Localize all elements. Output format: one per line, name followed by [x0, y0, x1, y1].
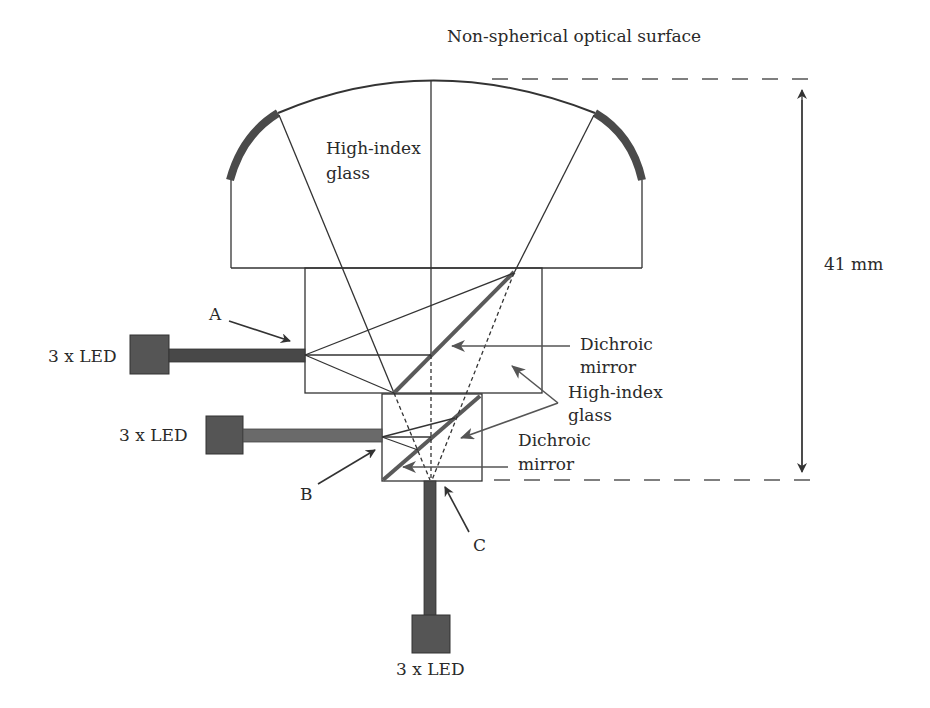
ray-a-upper [305, 273, 514, 355]
mirror-lower-label-line1: Dichroic [518, 430, 591, 450]
glass-top-label-line1: High-index [326, 138, 421, 158]
fiber-b [243, 429, 382, 442]
optical-combiner-diagram: Non-spherical optical surface 41 mm High… [0, 0, 930, 708]
upper-dichroic-mirror [394, 272, 514, 393]
led-a-label: 3 x LED [48, 346, 117, 366]
port-c-pointer [445, 487, 469, 532]
glass-side-label-line2: glass [568, 405, 612, 425]
upper-prism [305, 268, 542, 393]
led-c-block [412, 615, 450, 653]
led-b-label: 3 x LED [119, 425, 188, 445]
led-b-block [206, 416, 243, 454]
left-reflective-cap [230, 113, 278, 180]
glass-side-label-line1: High-index [568, 382, 663, 402]
mirror-lower-label-line2: mirror [518, 454, 575, 474]
dome-lens [230, 81, 642, 269]
fiber-c [424, 481, 436, 616]
led-a-block [130, 335, 169, 374]
port-c-label: C [473, 535, 486, 555]
ray-right-dome [514, 115, 594, 273]
mirror-upper-label-line1: Dichroic [580, 334, 653, 354]
port-a-label: A [208, 304, 222, 324]
port-a-pointer [229, 321, 290, 341]
right-reflective-cap [595, 113, 642, 180]
non-spherical-surface-label: Non-spherical optical surface [447, 26, 701, 46]
glass-upper-pointer [512, 366, 558, 403]
mirror-upper-label-line2: mirror [580, 357, 637, 377]
fiber-a [169, 349, 305, 362]
glass-top-label-line2: glass [326, 163, 370, 183]
non-spherical-surface [278, 81, 595, 114]
port-b-pointer [318, 450, 375, 484]
led-c-label: 3 x LED [396, 659, 465, 679]
ray-c-right [432, 273, 514, 480]
port-b-label: B [300, 484, 313, 504]
dimension-label: 41 mm [824, 254, 883, 274]
